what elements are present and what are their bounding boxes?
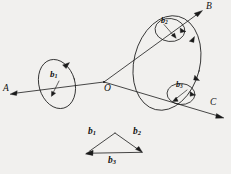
- triangle-b2-subscript: 2: [138, 129, 141, 136]
- vector-b3-subscript: 3: [180, 83, 183, 89]
- diagram-canvas: [0, 0, 231, 174]
- vector-b2-group: [164, 25, 176, 39]
- ray-c-arrowhead: [216, 114, 224, 119]
- kinematics-diagram-figure: A B C O b1 b2 b3 b1 b2 b3: [0, 0, 231, 174]
- ray-c-line: [104, 82, 220, 117]
- ray-b-label: B: [206, 2, 212, 12]
- body-big-spin-arrowhead-lower: [194, 75, 200, 80]
- vector-b1-label: b1: [50, 70, 58, 79]
- ray-c-group: [104, 82, 224, 118]
- body-1-ellipse: [33, 55, 81, 113]
- vector-b3-label: b3: [176, 81, 183, 90]
- ray-a-line: [13, 82, 104, 94]
- triangle-b3-subscript: 3: [113, 158, 116, 165]
- vector-b2-label: b2: [161, 17, 168, 26]
- vector-b1-arrowhead: [51, 91, 55, 96]
- body-3-spin-arrowhead: [190, 92, 195, 97]
- ray-a-group: [10, 82, 104, 95]
- triangle-b1-label: b1: [88, 127, 96, 137]
- body-big-spin-arrowhead-upper: [189, 37, 194, 43]
- triangle-b2-arrowhead: [136, 146, 143, 152]
- vector-b1-subscript: 1: [55, 73, 58, 79]
- vector-b3-group: [173, 90, 188, 102]
- triangle-b1-subscript: 1: [93, 129, 96, 136]
- body-1-ellipse-group: [33, 55, 81, 113]
- triangle-b3-label: b3: [108, 156, 116, 166]
- body-2-ellipse-group: [154, 17, 186, 43]
- ray-b-line: [104, 13, 199, 82]
- ray-a-arrowhead: [10, 91, 17, 96]
- triangle-b2-label: b2: [133, 127, 141, 137]
- ray-a-label: A: [3, 84, 9, 94]
- origin-label: O: [104, 84, 111, 94]
- triangle-side-b3: [90, 152, 142, 153]
- ray-c-label: C: [210, 98, 216, 108]
- vector-b2-subscript: 2: [165, 19, 168, 25]
- vector-b2-line: [164, 25, 174, 37]
